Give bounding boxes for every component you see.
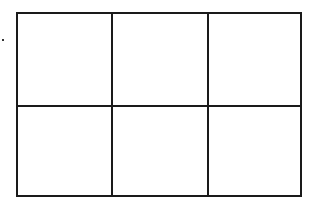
grid-cell-r1-c3 (209, 14, 300, 107)
grid-cell-r2-c1 (18, 107, 113, 195)
grid-cell-r2-c2 (113, 107, 209, 195)
grid-cell-r1-c1 (18, 14, 113, 107)
diagram-canvas (0, 0, 316, 210)
stray-dot-mark (2, 39, 4, 41)
empty-grid-2x3 (16, 12, 302, 197)
grid-cell-r1-c2 (113, 14, 209, 107)
grid-cell-r2-c3 (209, 107, 300, 195)
